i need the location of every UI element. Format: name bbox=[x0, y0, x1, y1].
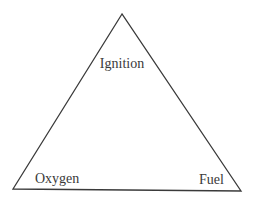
triangle-outline bbox=[13, 14, 241, 191]
label-ignition: Ignition bbox=[100, 56, 144, 71]
label-fuel: Fuel bbox=[199, 172, 224, 187]
fire-triangle-diagram: Ignition Oxygen Fuel bbox=[0, 0, 254, 200]
label-oxygen: Oxygen bbox=[35, 171, 79, 186]
